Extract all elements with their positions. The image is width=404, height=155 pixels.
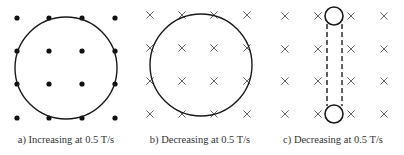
field-dot-icon bbox=[79, 48, 84, 53]
caption-panel-a: a) Increasing at 0.5 T/s bbox=[6, 134, 126, 146]
field-cross-icon bbox=[146, 11, 153, 18]
panel-a-increasing-field bbox=[14, 15, 117, 120]
field-cross-icon bbox=[210, 77, 217, 84]
field-cross-icon bbox=[347, 12, 354, 19]
induction-figure bbox=[0, 0, 404, 155]
field-dot-icon bbox=[14, 15, 19, 20]
field-cross-icon bbox=[380, 77, 387, 84]
field-cross-icon bbox=[314, 110, 321, 117]
panel-b-decreasing-field bbox=[146, 11, 252, 117]
field-cross-icon bbox=[281, 12, 288, 19]
conducting-loop bbox=[150, 14, 252, 116]
field-cross-icon bbox=[281, 77, 288, 84]
field-dot-icon bbox=[46, 48, 51, 53]
field-cross-icon bbox=[347, 45, 354, 52]
field-cross-icon bbox=[380, 12, 387, 19]
field-cross-icon bbox=[380, 110, 387, 117]
field-cross-icon bbox=[314, 12, 321, 19]
field-cross-icon bbox=[178, 77, 185, 84]
field-cross-icon bbox=[243, 110, 250, 117]
conducting-loop bbox=[15, 17, 117, 119]
field-cross-icon bbox=[347, 77, 354, 84]
field-dot-icon bbox=[46, 81, 51, 86]
field-dot-icon bbox=[112, 15, 117, 20]
field-dot-icon bbox=[14, 115, 19, 120]
caption-panel-b: b) Decreasing at 0.5 T/s bbox=[140, 134, 260, 146]
panel-c-decreasing-field-tube bbox=[281, 7, 387, 123]
field-cross-icon bbox=[178, 44, 185, 51]
field-cross-icon bbox=[314, 77, 321, 84]
caption-panel-c: c) Decreasing at 0.5 T/s bbox=[273, 134, 393, 146]
loop-bottom-circle bbox=[325, 105, 343, 123]
field-cross-icon bbox=[380, 45, 387, 52]
loop-top-circle bbox=[325, 7, 343, 25]
field-cross-icon bbox=[281, 45, 288, 52]
field-dot-icon bbox=[79, 81, 84, 86]
field-cross-icon bbox=[347, 110, 354, 117]
field-dot-icon bbox=[112, 115, 117, 120]
field-cross-icon bbox=[243, 11, 250, 18]
field-cross-icon bbox=[210, 44, 217, 51]
field-cross-icon bbox=[146, 110, 153, 117]
field-cross-icon bbox=[281, 110, 288, 117]
field-cross-icon bbox=[314, 45, 321, 52]
